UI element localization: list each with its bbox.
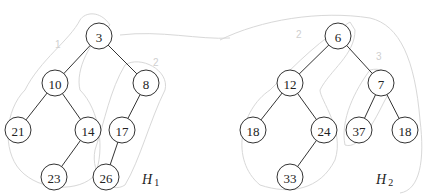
node-value: 7 — [378, 77, 385, 92]
sketch-note-h1-2: 2 — [153, 57, 159, 68]
heap-h2: 61271824371833 — [240, 23, 418, 190]
tree-node: 14 — [75, 117, 101, 143]
tree-node: 17 — [109, 117, 135, 143]
node-value: 37 — [353, 124, 367, 139]
node-value: 23 — [48, 171, 61, 186]
heap-label-h1: H1 — [141, 172, 159, 188]
tree-node: 23 — [41, 164, 67, 190]
tree-node: 3 — [86, 23, 112, 49]
sketch-annotations: 1 2 2 3 — [8, 14, 422, 193]
heap-label-h2-name: H — [375, 172, 387, 187]
node-value: 33 — [284, 171, 297, 186]
leftist-heaps-diagram: 1 2 2 3 31082114172326 61271824371833 H1… — [0, 0, 428, 195]
heap-label-h2-subscript: 2 — [388, 177, 393, 188]
tree-node: 37 — [346, 117, 372, 143]
node-value: 12 — [284, 77, 297, 92]
tree-node: 18 — [392, 117, 418, 143]
sketch-note-h2-2: 2 — [296, 29, 302, 40]
node-value: 26 — [100, 171, 114, 186]
heap-label-h1-name: H — [141, 172, 153, 187]
node-value: 21 — [12, 124, 25, 139]
tree-node: 24 — [311, 117, 337, 143]
node-value: 14 — [82, 124, 96, 139]
heap-label-h2: H2 — [375, 172, 393, 188]
node-value: 6 — [335, 30, 342, 45]
heap-h1: 31082114172326 — [5, 23, 159, 190]
node-value: 18 — [247, 124, 260, 139]
node-value: 10 — [49, 77, 62, 92]
sketch-note-h1-1: 1 — [55, 39, 61, 50]
tree-node: 21 — [5, 117, 31, 143]
tree-node: 6 — [325, 23, 351, 49]
tree-node: 26 — [93, 164, 119, 190]
tree-node: 12 — [277, 70, 303, 96]
node-value: 24 — [318, 124, 332, 139]
node-value: 17 — [116, 124, 130, 139]
tree-node: 7 — [368, 70, 394, 96]
tree-node: 10 — [42, 70, 68, 96]
tree-node: 33 — [277, 164, 303, 190]
sketch-outline-top — [120, 34, 230, 39]
sketch-note-h2-3: 3 — [376, 51, 382, 62]
node-value: 3 — [96, 30, 103, 45]
heap-label-h1-subscript: 1 — [154, 177, 159, 188]
tree-node: 8 — [133, 70, 159, 96]
node-value: 8 — [143, 77, 150, 92]
tree-node: 18 — [240, 117, 266, 143]
node-value: 18 — [399, 124, 412, 139]
